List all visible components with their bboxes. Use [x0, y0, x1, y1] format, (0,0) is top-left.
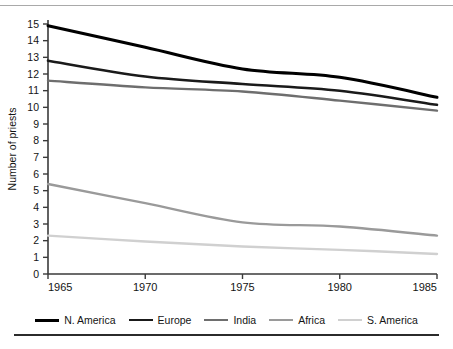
legend-label-europe: Europe: [158, 315, 192, 326]
y-axis-tick-label: 0: [33, 268, 39, 280]
y-axis-tick-label: 10: [27, 101, 39, 113]
legend-swatch-s-america: [338, 319, 362, 322]
x-axis-tick-label: 1975: [230, 281, 254, 293]
y-axis-tick-label: 2: [33, 234, 39, 246]
series-line-s-america: [48, 236, 437, 254]
legend-item-india[interactable]: India: [204, 315, 256, 326]
bottom-divider: [14, 334, 439, 336]
y-axis-tick-label: 5: [33, 184, 39, 196]
series-line-europe: [48, 61, 437, 105]
x-axis-tick-label: 1965: [48, 281, 72, 293]
legend-item-s-america[interactable]: S. America: [338, 315, 418, 326]
chart-legend: N. AmericaEuropeIndiaAfricaS. America: [0, 309, 453, 331]
legend-swatch-india: [204, 319, 228, 322]
legend-swatch-africa: [269, 319, 293, 322]
y-axis-tick-label: 6: [33, 168, 39, 180]
x-axis-tick-label: 1970: [133, 281, 157, 293]
y-axis-tick-label: 7: [33, 151, 39, 163]
y-axis-tick-label: 12: [27, 68, 39, 80]
legend-item-africa[interactable]: Africa: [269, 315, 325, 326]
legend-swatch-n-america: [35, 319, 59, 322]
series-line-africa: [48, 184, 437, 236]
legend-label-india: India: [233, 315, 256, 326]
y-axis-tick-label: 15: [27, 18, 39, 30]
y-axis-tick-label: 3: [33, 218, 39, 230]
y-axis-tick-label: 4: [33, 201, 39, 213]
legend-swatch-europe: [129, 319, 153, 322]
y-axis-tick-label: 9: [33, 118, 39, 130]
legend-label-s-america: S. America: [367, 315, 418, 326]
y-axis-tick-label: 8: [33, 134, 39, 146]
y-axis-tick-label: 11: [28, 84, 39, 96]
y-axis-tick-label: 13: [27, 51, 39, 63]
legend-label-n-america: N. America: [64, 315, 115, 326]
legend-label-africa: Africa: [298, 315, 325, 326]
y-axis-tick-label: 14: [27, 34, 39, 46]
x-axis-tick-label: 1980: [328, 281, 352, 293]
legend-item-europe[interactable]: Europe: [129, 315, 192, 326]
y-axis-title: Number of priests: [6, 108, 18, 191]
line-chart-figure: 0123456789101112131415196519701975198019…: [0, 6, 453, 331]
x-axis-tick-label: 1985: [413, 281, 437, 293]
chart-page: 0123456789101112131415196519701975198019…: [0, 0, 453, 349]
plot-area: 0123456789101112131415196519701975198019…: [0, 6, 453, 331]
y-axis-tick-label: 1: [33, 251, 39, 263]
series-line-n-america: [48, 26, 437, 98]
legend-item-n-america[interactable]: N. America: [35, 315, 115, 326]
